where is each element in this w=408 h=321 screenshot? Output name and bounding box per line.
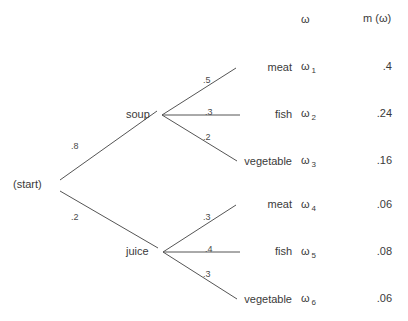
omega-cell-3: ω3 xyxy=(301,155,314,166)
omega-symbol-4: ω xyxy=(301,198,310,210)
mass-cell-4: .06 xyxy=(342,199,392,210)
omega-cell-6: ω6 xyxy=(301,293,314,304)
leaf-label-meat-juice: meat xyxy=(192,199,292,210)
leaf-label-meat-soup: meat xyxy=(192,62,292,73)
omega-symbol-5: ω xyxy=(301,245,310,257)
node-juice: juice xyxy=(126,246,149,257)
omega-cell-5: ω5 xyxy=(301,246,314,257)
leaf-label-vegetable-juice: vegetable xyxy=(192,294,292,305)
leaf-label-vegetable-soup: vegetable xyxy=(192,156,292,167)
omega-subscript-2: 2 xyxy=(312,113,316,122)
omega-subscript-5: 5 xyxy=(312,251,316,260)
node-soup: soup xyxy=(126,109,150,120)
probability-tree-diagram: ω m (ω) (start) soup juice .8 .2 .5 .3 .… xyxy=(0,0,408,321)
mass-cell-5: .08 xyxy=(342,246,392,257)
edge-prob-soup-meat: .5 xyxy=(203,76,211,85)
edge-prob-start-juice: .2 xyxy=(71,213,79,222)
edge-prob-soup-vegetable: .2 xyxy=(203,133,211,142)
mass-cell-6: .06 xyxy=(342,293,392,304)
omega-symbol-2: ω xyxy=(301,107,310,119)
omega-subscript-4: 4 xyxy=(312,204,316,213)
mass-cell-1: .4 xyxy=(342,61,392,72)
omega-symbol-6: ω xyxy=(301,292,310,304)
edge-prob-juice-meat: .3 xyxy=(203,213,211,222)
mass-column-header: m (ω) xyxy=(363,13,391,24)
omega-subscript-6: 6 xyxy=(312,298,316,307)
omega-column-header: ω xyxy=(301,14,310,25)
edge-soup-vegetable xyxy=(162,115,237,161)
mass-cell-3: .16 xyxy=(342,155,392,166)
node-start: (start) xyxy=(13,179,42,190)
edge-prob-start-soup: .8 xyxy=(71,142,79,151)
omega-symbol-3: ω xyxy=(301,154,310,166)
edge-juice-meat xyxy=(163,205,236,252)
mass-cell-2: .24 xyxy=(342,108,392,119)
leaf-label-fish-soup: fish xyxy=(192,109,292,120)
omega-cell-2: ω2 xyxy=(301,108,314,119)
omega-subscript-3: 3 xyxy=(312,160,316,169)
edge-prob-juice-vegetable: .3 xyxy=(203,270,211,279)
omega-symbol-1: ω xyxy=(301,60,310,72)
omega-cell-1: ω1 xyxy=(301,61,314,72)
edge-soup-meat xyxy=(162,68,236,115)
leaf-label-fish-juice: fish xyxy=(192,246,292,257)
edge-juice-vegetable xyxy=(163,252,237,299)
omega-subscript-1: 1 xyxy=(312,66,316,75)
omega-cell-4: ω4 xyxy=(301,199,314,210)
